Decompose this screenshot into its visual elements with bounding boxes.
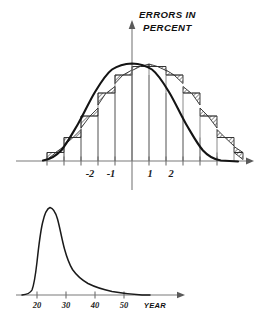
x-tick-label-neg2: -2: [86, 168, 95, 179]
x-tick-label-pos1: 1: [147, 168, 152, 179]
year-tick-label-30: 30: [61, 300, 71, 310]
x-tick-label-neg1: -1: [107, 168, 116, 179]
chart-title: ERRORS IN PERCENT: [139, 9, 197, 33]
year-distribution-chart: 20 30 40 50 YEAR: [0, 190, 274, 326]
year-axis-label: YEAR: [144, 301, 167, 310]
normal-distribution-curve: [43, 64, 238, 162]
title-line-2: PERCENT: [143, 22, 192, 33]
errors-in-percent-chart: ERRORS IN PERCENT -2 -1 1 2: [0, 0, 274, 190]
year-tick-label-20: 20: [32, 300, 42, 310]
x-tick-labels: -2 -1 1 2: [86, 168, 175, 179]
x-tick-label-pos2: 2: [167, 168, 174, 179]
year-x-axis: [16, 292, 185, 298]
year-distribution-curve: [22, 208, 150, 296]
title-line-1: ERRORS IN: [139, 9, 197, 20]
year-tick-label-40: 40: [90, 300, 100, 310]
statistical-figure-root: ERRORS IN PERCENT -2 -1 1 2 20: [0, 0, 274, 326]
year-tick-label-50: 50: [120, 300, 129, 310]
y-axis: [129, 20, 136, 190]
hatched-difference-regions: [47, 64, 243, 160]
year-x-tick-labels: 20 30 40 50: [32, 300, 129, 310]
